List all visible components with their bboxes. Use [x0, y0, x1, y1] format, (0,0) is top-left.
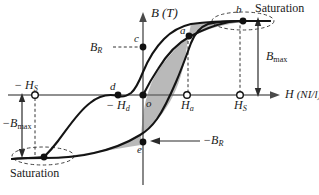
b-axis-unit: (T) [162, 5, 178, 20]
origin-label: o [146, 98, 152, 109]
h-axis-symbol: H [285, 87, 294, 101]
br-subscript: R [97, 46, 102, 55]
point-label-a: a [180, 25, 186, 36]
point-marker-a [186, 33, 193, 40]
h-axis-unit: (NI/l) [297, 88, 319, 100]
b-axis-label: B(T) [151, 6, 178, 19]
neg-hs-symbol: − H [14, 78, 34, 92]
neg-hd-subscript: d [126, 104, 130, 113]
neg-hs-label: − HS [14, 79, 38, 93]
neg-bmax-arrow-down [19, 149, 25, 158]
point-label-c: c [134, 33, 139, 44]
neg-bmax-subscript: max [17, 122, 31, 131]
ha-subscript: a [190, 104, 194, 113]
neg-br-label: −BR [203, 134, 223, 148]
ha-label: Ha [181, 99, 194, 113]
neg-br-arrowhead [150, 137, 160, 144]
neg-hd-label: − Hd [106, 99, 130, 113]
bmax-label: Bmax [266, 50, 287, 64]
bmax-subscript: max [273, 55, 287, 64]
point-label-d: d [110, 81, 116, 92]
hs-subscript: S [243, 104, 247, 113]
neg-hs-subscript: S [34, 84, 38, 93]
saturation-label-top: Saturation [255, 2, 304, 14]
point-label-b: b [236, 4, 242, 15]
h-axis-label: H(NI/l) [285, 88, 319, 100]
hs-label: HS [234, 99, 247, 113]
neg-br-symbol: −B [203, 133, 218, 147]
b-axis-symbol: B [151, 5, 159, 20]
point-marker-c [140, 44, 147, 51]
neg-bmax-label: −Bmax [2, 117, 31, 131]
h-axis-arrowhead [270, 91, 280, 99]
neg-hd-symbol: − H [106, 98, 126, 112]
neg-bmax-symbol: −B [2, 116, 17, 130]
neg-br-subscript: R [218, 139, 223, 148]
b-axis-arrowhead [139, 12, 147, 22]
br-label: BR [90, 41, 102, 55]
hs-symbol: H [234, 98, 243, 112]
point-marker-b [240, 18, 247, 25]
ha-symbol: H [181, 98, 190, 112]
saturation-label-bottom: Saturation [10, 167, 59, 179]
point-label-e: e [137, 144, 142, 155]
point-marker-neg-saturation [41, 154, 48, 161]
